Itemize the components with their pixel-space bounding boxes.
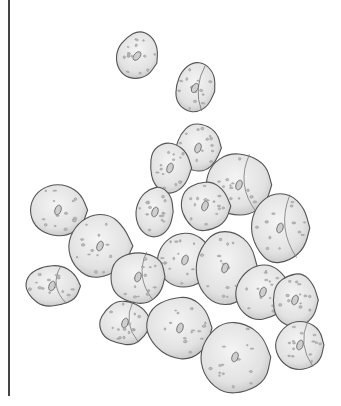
cell [201,322,271,392]
cell [273,274,318,327]
cell [100,301,152,344]
cell [173,60,220,115]
cell [26,266,80,306]
cell [276,321,324,370]
epithelial-cells-illustration [0,0,341,406]
cell [110,26,165,84]
cell [111,252,165,304]
cell [252,194,310,263]
cell [136,187,173,237]
